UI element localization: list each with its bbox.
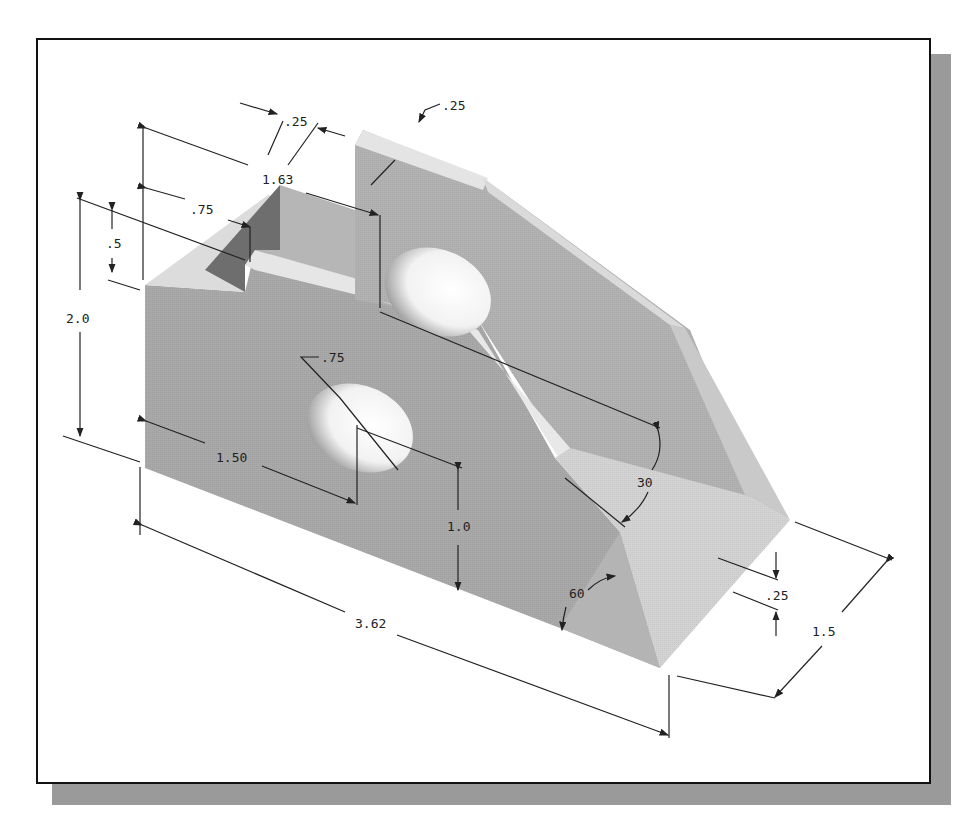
dim-angle-lower: 60 (569, 586, 585, 601)
dim-hole-diameter: .75 (321, 350, 344, 365)
dim-overall-length: 3.62 (355, 616, 386, 631)
dim-base-step: .25 (765, 588, 788, 603)
isometric-part-drawing: .25 .25 1.63 .75 .5 2.0 .75 1.50 1.0 30 … (0, 0, 980, 825)
dim-slot-height: .5 (106, 236, 122, 251)
dim-slot-depth: 1.63 (262, 172, 293, 187)
dim-slot-offset: .75 (190, 202, 213, 217)
dim-slot-width-top: .25 (284, 114, 307, 129)
dim-hole-x: 1.50 (216, 450, 247, 465)
dim-rib-thickness: .25 (442, 98, 465, 113)
dim-angle-upper: 30 (637, 475, 653, 490)
dim-overall-width: 1.5 (812, 624, 835, 639)
dim-hole-y: 1.0 (447, 519, 470, 534)
dim-overall-height: 2.0 (66, 311, 89, 326)
part-body (145, 130, 790, 668)
